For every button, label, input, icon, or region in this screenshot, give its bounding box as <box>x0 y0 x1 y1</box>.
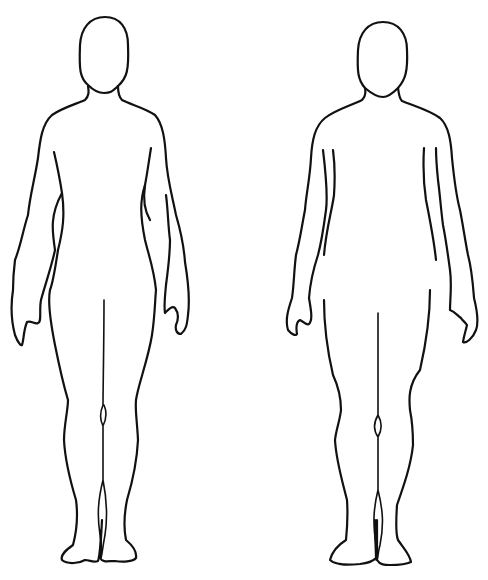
body-outlines-canvas <box>0 0 488 580</box>
male-outline <box>287 22 478 565</box>
head <box>358 22 408 97</box>
female-outline <box>12 17 189 563</box>
body-contour <box>287 88 366 335</box>
head <box>80 17 129 93</box>
